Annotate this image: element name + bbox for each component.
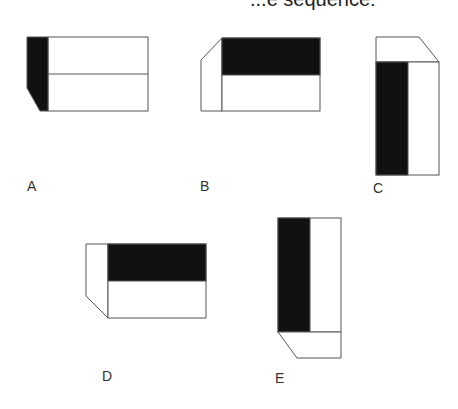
option-a-label: A <box>27 178 36 194</box>
option-e-figure[interactable] <box>278 218 341 358</box>
option-a-figure[interactable] <box>27 37 148 111</box>
option-d-figure[interactable] <box>86 244 206 318</box>
option-b-figure[interactable] <box>201 38 320 111</box>
option-c-figure[interactable] <box>376 37 439 175</box>
option-e-label: E <box>275 370 284 386</box>
option-b-label: B <box>200 178 209 194</box>
figure-options <box>0 0 458 409</box>
option-c-label: C <box>373 180 383 196</box>
option-d-label: D <box>102 368 112 384</box>
